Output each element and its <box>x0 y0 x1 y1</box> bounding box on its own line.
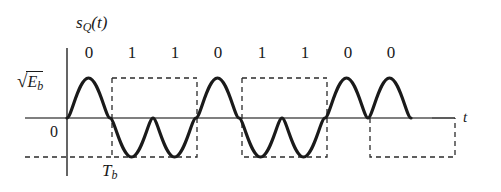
bit-label-5: 1 <box>293 44 317 61</box>
y-axis-title-main: s <box>76 13 83 32</box>
bit-period-label: Tb <box>102 162 117 181</box>
bit-label-3: 0 <box>206 44 230 61</box>
amplitude-label: √Eb <box>17 71 43 92</box>
bit-label-2: 1 <box>163 44 187 61</box>
origin-label: 0 <box>50 124 58 140</box>
amplitude-label-subscript: b <box>37 79 43 93</box>
sqrt-symbol-icon: √Eb <box>17 71 43 92</box>
y-axis-title-suffix: (t) <box>91 13 107 32</box>
bit-label-6: 0 <box>336 44 360 61</box>
y-axis-title-subscript: Q <box>83 20 92 34</box>
dashed-box-trailing <box>370 118 455 157</box>
amplitude-label-main: E <box>27 73 37 90</box>
x-axis-label: t <box>463 110 467 125</box>
bit-label-4: 1 <box>250 44 274 61</box>
bit-label-1: 1 <box>120 44 144 61</box>
waveform-figure: sQ(t) √Eb 0 t Tb 0 1 1 0 1 1 0 0 <box>0 0 501 192</box>
y-axis-title: sQ(t) <box>76 14 107 33</box>
bit-period-label-subscript: b <box>111 168 117 182</box>
bit-label-0: 0 <box>77 44 101 61</box>
bit-label-7: 0 <box>379 44 403 61</box>
